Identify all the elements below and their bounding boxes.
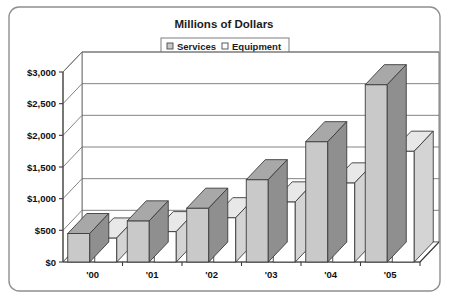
bar-chart: Millions of Dollars Services Equipment $… (0, 0, 449, 299)
bar-services-04-front (306, 142, 328, 262)
ytick-label-1500: $1,500 (27, 162, 56, 173)
xtick-label-05: '05 (384, 269, 398, 280)
bar-equipment-05-side (414, 131, 433, 262)
ytick-label-3000: $3,000 (27, 67, 56, 78)
chart-title: Millions of Dollars (174, 18, 273, 30)
xtick-label-01: '01 (146, 269, 160, 280)
bar-services-05-side (387, 65, 406, 262)
legend-label-services: Services (177, 41, 216, 52)
bar-services-00-front (68, 234, 90, 263)
bar-services-04-side (328, 122, 347, 262)
bar-services-05 (365, 65, 406, 262)
legend-label-equipment: Equipment (232, 41, 282, 52)
legend-swatch-equipment-icon (222, 43, 228, 49)
ytick-label-500: $500 (35, 225, 56, 236)
ytick-label-2000: $2,000 (27, 130, 56, 141)
bar-services-05-front (365, 85, 387, 262)
bar-services-01-front (127, 221, 149, 262)
ytick-label-1000: $1,000 (27, 193, 56, 204)
xtick-label-02: '02 (205, 269, 218, 280)
xtick-label-04: '04 (324, 269, 338, 280)
legend-swatch-services-icon (167, 43, 173, 49)
bar-services-04 (306, 122, 347, 262)
bar-services-03 (246, 160, 287, 262)
bar-services-03-front (246, 180, 268, 262)
ytick-label-2500: $2,500 (27, 98, 56, 109)
xtick-label-00: '00 (86, 269, 99, 280)
bar-services-02-front (187, 208, 209, 262)
ytick-label-0: $0 (45, 257, 56, 268)
plot-area: $0$500$1,000$1,500$2,000$2,500$3,000'00'… (27, 52, 439, 280)
xtick-label-03: '03 (265, 269, 278, 280)
